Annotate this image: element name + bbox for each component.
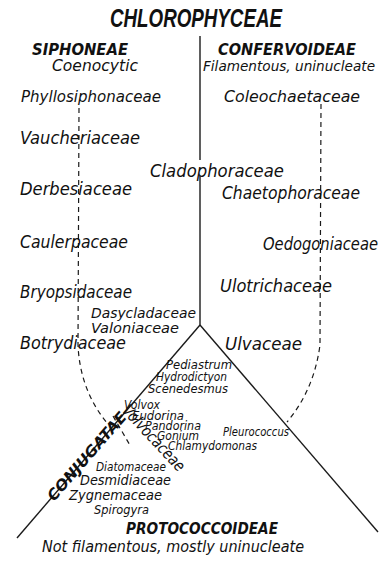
chlorophyceae-classification-diagram: CHLOROPHYCEAE SIPHONEAE Coenocytic CONFE… [0, 0, 392, 563]
family-botrydiaceae: Botrydiaceae [20, 333, 126, 353]
family-caulerpaceae: Caulerpaceae [20, 232, 128, 252]
group-confervoideae-name: CONFERVOIDEAE [218, 41, 357, 59]
confervoideae-dashed-boundary [287, 104, 321, 422]
family-phyllosiphonaceae: Phyllosiphonaceae [21, 87, 161, 106]
group-protococcoideae-description: Not filamentous, mostly uninucleate [42, 537, 304, 556]
siphoneae-dashed-boundary [78, 108, 107, 423]
group-siphoneae-description: Coenocytic [52, 57, 139, 75]
family-coleochaetaceae: Coleochaetaceae [224, 87, 360, 106]
genus-chlamydomonas: Chlamydomonas [168, 439, 257, 453]
family-derbesiaceae: Derbesiaceae [20, 179, 132, 199]
family-cladophoraceae: Cladophoraceae [150, 161, 284, 181]
family-ulvaceae: Ulvaceae [225, 334, 302, 354]
genus-scenedesmus: Scenedesmus [148, 382, 228, 396]
family-oedogoniaceae: Oedogoniaceae [263, 234, 378, 254]
family-spirogyra: Spirogyra [94, 503, 149, 517]
family-chaetophoraceae: Chaetophoraceae [222, 183, 360, 203]
family-zygnemaceae: Zygnemaceae [68, 487, 162, 503]
confervoideae-families: Coleochaetaceae Chaetophoraceae Oedogoni… [220, 87, 378, 354]
group-protococcoideae-name: PROTOCOCCOIDEAE [126, 520, 279, 538]
family-desmidiaceae: Desmidiaceae [80, 472, 171, 488]
family-dasycladaceae: Dasycladaceae [91, 305, 196, 321]
diagram-title: CHLOROPHYCEAE [110, 4, 283, 32]
family-valoniaceae: Valoniaceae [91, 320, 179, 336]
group-confervoideae-description: Filamentous, uninucleate [203, 58, 375, 74]
genus-pleurococcus: Pleurococcus [223, 425, 289, 439]
family-ulotrichaceae: Ulotrichaceae [220, 276, 332, 296]
family-vaucheriaceae: Vaucheriaceae [20, 128, 140, 148]
family-bryopsidaceae: Bryopsidaceae [20, 282, 132, 302]
